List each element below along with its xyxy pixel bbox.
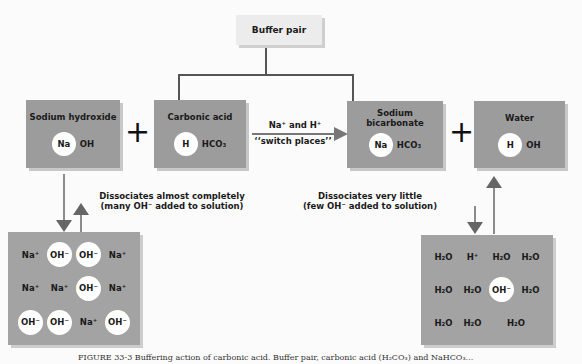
compound-carbonic-acid: Carbonic acid H HCO₃ bbox=[154, 100, 246, 168]
ion-label: H₂O bbox=[434, 252, 452, 262]
switch-arrow-shaft bbox=[252, 133, 338, 135]
buffer-pair-box: Buffer pair bbox=[236, 15, 322, 45]
ion-label: OH⁻ bbox=[76, 276, 101, 301]
ion-cell: H₂O bbox=[516, 241, 545, 274]
ion-cell-circled: OH⁻ bbox=[103, 305, 132, 339]
compound-sodium-hydroxide: Sodium hydroxide Na OH bbox=[26, 100, 120, 168]
ion-label: OH⁻ bbox=[47, 242, 72, 267]
compound-formula: Na OH bbox=[26, 132, 120, 156]
compound-water: Water H OH bbox=[474, 101, 565, 168]
ion-label: H₂O bbox=[434, 318, 452, 328]
compound-name: Water bbox=[474, 107, 565, 129]
ion-cell-circled: OH⁻ bbox=[74, 272, 103, 306]
ion-rest: HCO₃ bbox=[397, 140, 421, 150]
left-dissociation-arrows-icon bbox=[52, 172, 92, 234]
ion-cell: Na⁺ bbox=[16, 272, 45, 306]
ion-label: OH⁻ bbox=[489, 277, 514, 302]
ion-cell: H₂O bbox=[458, 274, 487, 307]
buffer-pair-label: Buffer pair bbox=[252, 25, 306, 35]
ion-label: H₂O bbox=[521, 285, 539, 295]
ion-label: Na⁺ bbox=[80, 317, 97, 327]
ion-cell: Na⁺ bbox=[74, 305, 103, 339]
connector-vertical-top bbox=[265, 48, 267, 75]
ion-cell-circled: OH⁻ bbox=[45, 305, 74, 339]
ion-circle: Na bbox=[369, 133, 393, 157]
ion-cell-circled: OH⁻ bbox=[16, 305, 45, 339]
ion-label: H₂O bbox=[463, 318, 481, 328]
ion-rest: HCO₃ bbox=[202, 139, 226, 149]
left-solution-box: Na⁺ OH⁻ OH⁻ Na⁺ Na⁺ Na⁺ OH⁻ Na⁺ OH⁻ OH⁻ … bbox=[8, 232, 140, 345]
ion-label: H₂O bbox=[507, 318, 525, 328]
ion-label: Na⁺ bbox=[22, 250, 39, 260]
ion-label: H₂O bbox=[521, 252, 539, 262]
ion-label: OH⁻ bbox=[47, 310, 72, 335]
ion-cell: Na⁺ bbox=[16, 238, 45, 272]
connector-horizontal bbox=[178, 74, 353, 76]
ion-label: H₂O bbox=[463, 285, 481, 295]
right-note-line1: Dissociates very little bbox=[300, 191, 440, 201]
ion-cell: H₂O bbox=[516, 274, 545, 307]
ion-rest: OH bbox=[526, 140, 540, 150]
figure-caption: FIGURE 33-3 Buffering action of carbonic… bbox=[78, 353, 473, 362]
compound-name: Sodium hydroxide bbox=[26, 106, 120, 128]
switch-label-bottom: ‘‘switch places’’ bbox=[250, 136, 336, 147]
ion-label: Na⁺ bbox=[51, 283, 68, 293]
right-note-line2: (few OH⁻ added to solution) bbox=[300, 201, 440, 211]
compound-name: Sodium bicarbonate bbox=[347, 107, 443, 129]
ion-cell: Na⁺ bbox=[103, 272, 132, 306]
compound-sodium-bicarbonate: Sodium bicarbonate Na HCO₃ bbox=[347, 101, 443, 168]
right-dissociation-arrows-icon bbox=[464, 172, 504, 236]
switch-label-top: Na⁺ and H⁺ bbox=[250, 120, 340, 131]
right-note: Dissociates very little (few OH⁻ added t… bbox=[300, 191, 440, 211]
ion-cell: Na⁺ bbox=[103, 238, 132, 272]
ion-cell-circled: OH⁻ bbox=[45, 238, 74, 272]
ion-label: OH⁻ bbox=[105, 310, 130, 335]
ion-circle: H bbox=[498, 133, 522, 157]
compound-name: Carbonic acid bbox=[154, 106, 246, 128]
ion-label: Na⁺ bbox=[109, 283, 126, 293]
left-note-line1: Dissociates almost completely bbox=[92, 191, 252, 201]
connector-right-drop bbox=[352, 74, 354, 101]
ion-label: OH⁻ bbox=[76, 242, 101, 267]
ion-cell: H⁺ bbox=[458, 241, 487, 274]
plus-sign-2: + bbox=[449, 117, 474, 147]
compound-formula: Na HCO₃ bbox=[347, 133, 443, 157]
compound-formula: H HCO₃ bbox=[154, 132, 246, 156]
ion-cell: H₂O bbox=[458, 306, 487, 339]
ion-label: Na⁺ bbox=[109, 250, 126, 260]
ion-cell: H₂O bbox=[429, 306, 458, 339]
ion-rest: OH bbox=[80, 139, 94, 149]
ion-circle: Na bbox=[52, 132, 76, 156]
connector-left-drop bbox=[178, 74, 180, 101]
left-note: Dissociates almost completely (many OH⁻ … bbox=[92, 191, 252, 211]
left-note-line2: (many OH⁻ added to solution) bbox=[92, 201, 252, 211]
ion-cell: Na⁺ bbox=[45, 272, 74, 306]
right-solution-box: H₂O H⁺ H₂O H₂O H₂O H₂O OH⁻ H₂O H₂O H₂O H… bbox=[421, 235, 553, 345]
ion-cell-circled: OH⁻ bbox=[487, 274, 516, 307]
ion-cell: H₂O bbox=[487, 306, 545, 339]
ion-label: H₂O bbox=[492, 252, 510, 262]
ion-cell-circled: OH⁻ bbox=[74, 238, 103, 272]
ion-cell: H₂O bbox=[429, 241, 458, 274]
switch-arrow-head-icon bbox=[334, 127, 348, 141]
ion-label: Na⁺ bbox=[22, 283, 39, 293]
ion-label: OH⁻ bbox=[18, 310, 43, 335]
ion-label: H₂O bbox=[434, 285, 452, 295]
ion-circle: H bbox=[174, 132, 198, 156]
ion-label: H⁺ bbox=[467, 252, 479, 262]
ion-cell: H₂O bbox=[429, 274, 458, 307]
plus-sign-1: + bbox=[125, 117, 150, 147]
compound-formula: H OH bbox=[474, 133, 565, 157]
ion-cell: H₂O bbox=[487, 241, 516, 274]
